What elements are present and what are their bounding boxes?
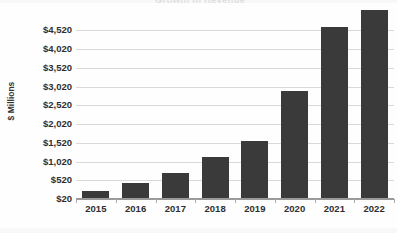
y-axis-tick-label: $2,020 (10, 118, 72, 129)
x-axis-tick-label: 2018 (195, 203, 235, 214)
bar-slot (116, 8, 156, 198)
bar-slot (235, 8, 275, 198)
scan-artifact (0, 228, 397, 233)
y-axis-tick-label: $3,520 (10, 62, 72, 73)
bar-slot (315, 8, 355, 198)
bar-slot (354, 8, 394, 198)
scan-artifact (0, 0, 397, 3)
bar[interactable] (321, 27, 348, 198)
x-axis-tick (394, 199, 395, 203)
x-axis-tick-label: 2020 (275, 203, 315, 214)
x-axis-tick-label: 2019 (235, 203, 275, 214)
x-axis-tick-label: 2015 (76, 203, 116, 214)
x-axis-tick-label: 2016 (116, 203, 156, 214)
bar[interactable] (281, 91, 308, 198)
bar[interactable] (361, 10, 388, 198)
bar[interactable] (82, 191, 109, 198)
bar[interactable] (202, 157, 229, 198)
bar-slot (156, 8, 196, 198)
bar[interactable] (122, 183, 149, 198)
y-axis-tick-label: $4,020 (10, 43, 72, 54)
bar-slot (275, 8, 315, 198)
x-axis-tick-label: 2021 (315, 203, 355, 214)
y-axis-tick-label: $520 (10, 174, 72, 185)
y-axis-tick-label: $2,520 (10, 99, 72, 110)
bar[interactable] (162, 173, 189, 198)
bar[interactable] (241, 141, 268, 198)
y-axis-tick-label: $4,520 (10, 24, 72, 35)
plot-area (76, 8, 394, 199)
y-axis-tick-label: $3,020 (10, 81, 72, 92)
y-axis-tick-label: $20 (10, 193, 72, 204)
x-axis-tick-labels: 20152016201720182019202020212022 (76, 203, 394, 214)
bar-chart: Growth in Revenue $ Millions $20$520$1,0… (0, 0, 397, 233)
bars-layer (76, 8, 394, 198)
y-axis-tick-label: $1,020 (10, 156, 72, 167)
bar-slot (76, 8, 116, 198)
y-axis-tick-label: $1,520 (10, 137, 72, 148)
bar-slot (195, 8, 235, 198)
x-axis-tick-label: 2017 (156, 203, 196, 214)
x-axis-tick-label: 2022 (354, 203, 394, 214)
